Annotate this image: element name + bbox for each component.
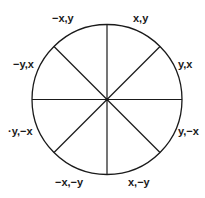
center-point: [105, 98, 108, 101]
label-neg-x-y: −x,y: [52, 12, 75, 24]
label-neg-y-x: −y,x: [13, 58, 35, 70]
octant-symmetry-diagram: −x,y x,y −y,x y,x ·y,−x y,−x −x,−y x,−y: [0, 0, 205, 198]
label-y-x: y,x: [178, 58, 193, 70]
label-x-neg-y: x,−y: [128, 176, 151, 188]
label-x-y: x,y: [133, 12, 149, 24]
label-y-neg-x: y,−x: [178, 125, 200, 137]
label-neg-x-neg-y: −x,−y: [55, 176, 84, 188]
label-neg-y-neg-x: ·y,−x: [8, 125, 33, 137]
